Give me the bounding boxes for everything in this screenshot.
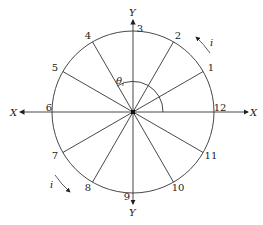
spoke-2 <box>133 42 174 112</box>
point-label-2: 2 <box>175 30 181 41</box>
point-label-7: 7 <box>52 150 58 161</box>
y-top-label: Y <box>129 7 137 18</box>
y-bottom-label: Y <box>129 207 137 218</box>
point-label-12: 12 <box>214 102 227 113</box>
center-point <box>131 110 135 114</box>
spoke-11 <box>133 112 203 153</box>
rotation-arrow-top-icon <box>196 37 210 53</box>
point-labels: 123456789101112 <box>46 23 227 202</box>
point-label-11: 11 <box>205 150 218 161</box>
point-label-3: 3 <box>137 23 143 34</box>
spoke-5 <box>63 72 133 113</box>
point-label-9: 9 <box>124 191 130 202</box>
spoke-10 <box>133 112 174 182</box>
point-label-6: 6 <box>46 102 52 113</box>
x-right-label: X <box>249 107 258 118</box>
rotation-arrow-bottom-icon <box>55 175 70 192</box>
point-label-4: 4 <box>85 30 91 41</box>
spoke-7 <box>63 112 133 153</box>
point-label-5: 5 <box>52 62 58 73</box>
rotation-label-top: i <box>210 37 213 48</box>
angle-label: θi <box>116 75 124 87</box>
spoke-1 <box>133 72 203 113</box>
rotation-label-bottom: i <box>50 179 53 190</box>
point-label-1: 1 <box>208 62 214 73</box>
x-left-label: X <box>9 107 18 118</box>
radial-diagram: X X Y Y θi i i 123456789101112 <box>0 0 263 225</box>
point-label-10: 10 <box>172 182 185 193</box>
spoke-8 <box>93 112 134 182</box>
spoke-4 <box>93 42 134 112</box>
point-label-8: 8 <box>85 182 91 193</box>
